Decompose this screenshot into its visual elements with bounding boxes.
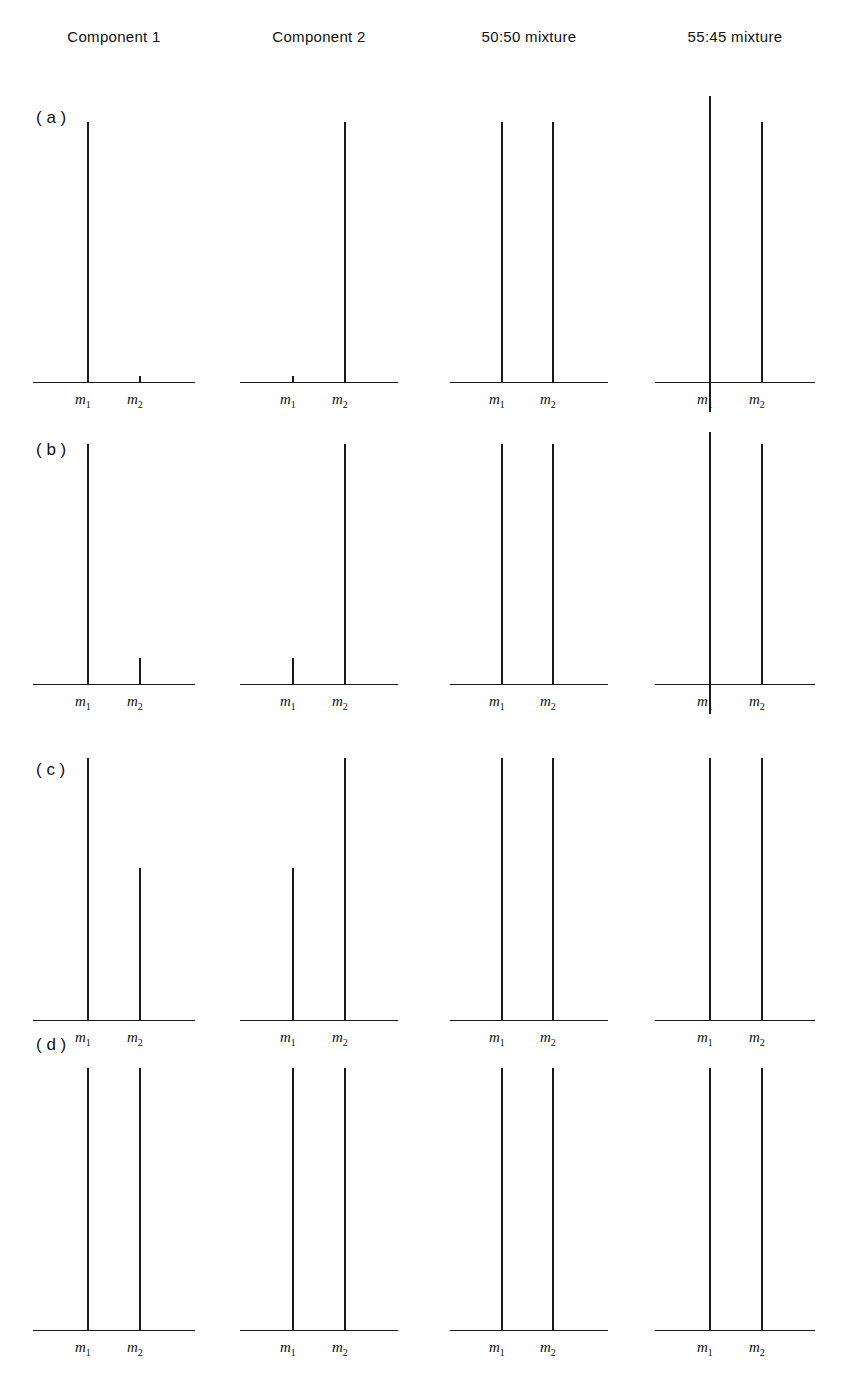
axis-label-m2: m2: [749, 1339, 765, 1358]
axis-label-m1: m1: [697, 1339, 713, 1358]
baseline-axis: [655, 1330, 815, 1331]
peak-m2: [761, 1068, 763, 1330]
peak-m1: [709, 1068, 711, 1330]
mass-spectra-figure: Component 1Component 250:50 mixture55:45…: [0, 0, 842, 1379]
panel-row-4-col-4: m1m2: [0, 0, 842, 1379]
